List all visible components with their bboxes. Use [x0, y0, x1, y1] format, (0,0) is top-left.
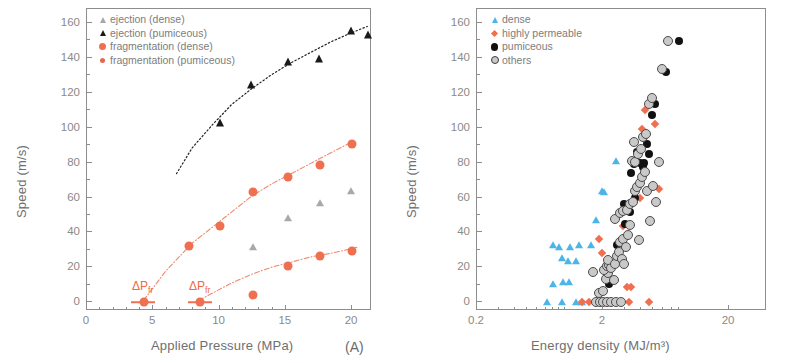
- legend-label: highly permeable: [501, 27, 582, 41]
- legend-item: others: [488, 54, 582, 68]
- marker-diamond-orange: [595, 234, 603, 242]
- y-tick-mark: [86, 231, 92, 232]
- panel-a: ΔPfrΔPfr 02040608010012014016005101520 S…: [0, 0, 395, 363]
- y-tick-mark: [476, 162, 482, 163]
- marker-diamond-orange: [627, 283, 635, 291]
- marker-triangle-cyan: [575, 241, 583, 248]
- y-tick-mark: [86, 57, 92, 58]
- fit-curve: [199, 247, 357, 300]
- x-tick-mark-minor: [113, 307, 114, 310]
- x-tick-mark-minor: [536, 307, 537, 310]
- y-tick-mark-minor: [86, 249, 90, 250]
- marker-triangle-cyan: [572, 257, 580, 264]
- x-tick-mark-minor: [205, 307, 206, 310]
- y-tick-mark-minor: [476, 284, 480, 285]
- x-tick-mark-minor: [232, 307, 233, 310]
- marker-triangle-black: [315, 54, 323, 62]
- marker-circle-open: [654, 157, 664, 167]
- marker-circle-open: [634, 235, 644, 245]
- marker-triangle-cyan: [587, 241, 595, 248]
- y-tick-mark: [476, 266, 482, 267]
- legend-a: ejection (dense)ejection (pumiceous)frag…: [96, 13, 235, 67]
- legend-diamond-orange-icon: [488, 31, 501, 36]
- x-tick-mark-minor: [545, 307, 546, 310]
- marker-circle-open: [616, 297, 626, 307]
- x-tick-mark-minor: [662, 307, 663, 310]
- x-tick-mark-minor: [245, 307, 246, 310]
- x-tick-mark: [728, 305, 729, 310]
- y-tick-mark-minor: [86, 109, 90, 110]
- legend-b: densehighly permeablepumiceousothers: [488, 13, 582, 67]
- marker-circle-open: [645, 216, 655, 226]
- marker-circle-black: [627, 169, 635, 177]
- marker-circle-open: [636, 144, 646, 154]
- y-tick-label: 80: [46, 156, 80, 168]
- marker-circle-orange: [215, 222, 224, 231]
- marker-circle-open: [641, 129, 651, 139]
- x-axis-label-a: Applied Pressure (MPa): [151, 338, 293, 353]
- marker-triangle-black: [347, 26, 355, 34]
- y-tick-label: 80: [436, 156, 470, 168]
- y-tick-mark-minor: [476, 74, 480, 75]
- x-tick-mark-minor: [139, 307, 140, 310]
- y-tick-label: 0: [46, 295, 80, 307]
- y-tick-label: 160: [436, 16, 470, 28]
- x-tick-mark: [602, 305, 603, 310]
- y-tick-mark-minor: [476, 144, 480, 145]
- error-bar: [131, 302, 155, 304]
- x-tick-label: 20: [722, 314, 735, 326]
- y-tick-mark: [86, 162, 92, 163]
- x-tick-label: 10: [212, 314, 225, 326]
- legend-item: fragmentation (pumiceous): [96, 54, 235, 68]
- marker-triangle-cyan: [543, 298, 551, 305]
- y-tick-mark: [476, 197, 482, 198]
- marker-triangle-cyan: [566, 243, 574, 250]
- x-tick-mark: [152, 305, 153, 310]
- x-tick-mark-minor: [678, 307, 679, 310]
- marker-circle-open: [628, 197, 638, 207]
- legend-label: fragmentation (pumiceous): [109, 54, 235, 68]
- x-tick-mark-minor: [671, 307, 672, 310]
- marker-circle-open: [598, 286, 608, 296]
- x-tick-mark-minor: [258, 307, 259, 310]
- marker-circle-open: [609, 275, 619, 285]
- marker-circle-open: [648, 181, 658, 191]
- y-tick-mark-minor: [86, 214, 90, 215]
- marker-triangle-gray: [284, 214, 292, 221]
- y-tick-mark: [86, 92, 92, 93]
- y-tick-label: 60: [46, 191, 80, 203]
- x-tick-mark: [86, 305, 87, 310]
- y-tick-label: 40: [46, 225, 80, 237]
- y-tick-label: 100: [46, 121, 80, 133]
- y-tick-label: 20: [46, 260, 80, 272]
- legend-label: dense: [501, 13, 531, 27]
- y-tick-label: 120: [436, 86, 470, 98]
- x-tick-mark-minor: [166, 307, 167, 310]
- marker-triangle-cyan: [558, 298, 566, 305]
- y-tick-label: 20: [436, 260, 470, 272]
- marker-circle-open: [647, 93, 657, 103]
- y-tick-mark: [86, 22, 92, 23]
- marker-diamond-orange: [644, 298, 652, 306]
- x-tick-label: 2: [599, 314, 605, 326]
- marker-triangle-cyan: [612, 157, 620, 164]
- y-tick-mark: [86, 197, 92, 198]
- y-tick-mark-minor: [476, 179, 480, 180]
- legend-item: dense: [488, 13, 582, 27]
- x-tick-mark-minor: [624, 307, 625, 310]
- marker-triangle-cyan: [592, 216, 600, 223]
- legend-label: pumiceous: [501, 40, 553, 54]
- marker-triangle-cyan: [549, 280, 557, 287]
- y-tick-label: 120: [46, 86, 80, 98]
- marker-circle-open: [651, 197, 661, 207]
- marker-triangle-black: [364, 31, 372, 39]
- marker-circle-black: [648, 111, 656, 119]
- y-tick-mark: [86, 301, 92, 302]
- y-tick-mark-minor: [476, 39, 480, 40]
- y-tick-mark-minor: [476, 249, 480, 250]
- marker-circle-orange: [316, 160, 325, 169]
- delta-p-fr-label: ΔPfr: [132, 279, 153, 295]
- y-axis-label-a: Speed (m/s): [14, 145, 29, 218]
- legend-item: fragmentation (dense): [96, 40, 235, 54]
- marker-circle-black: [645, 150, 653, 158]
